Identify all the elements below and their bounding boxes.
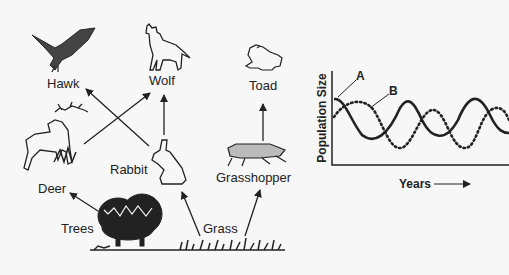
arrow-grass-to-rabbit — [182, 192, 200, 236]
label-grass: Grass — [203, 222, 238, 235]
rabbit-icon — [152, 140, 186, 184]
label-wolf: Wolf — [149, 74, 175, 87]
toad-icon — [246, 45, 282, 70]
y-axis-label: Population Size — [316, 58, 328, 178]
trees-icon — [98, 194, 162, 246]
arrow-trees-to-deer — [70, 193, 98, 211]
grasshopper-icon — [228, 144, 286, 166]
label-rabbit: Rabbit — [110, 163, 148, 176]
deer-icon — [24, 102, 88, 170]
arrow-rabbit-to-hawk — [86, 89, 149, 146]
hawk-icon — [32, 28, 95, 72]
series-b-label: B — [389, 85, 398, 97]
arrow-deer-to-wolf — [84, 93, 150, 144]
label-trees: Trees — [61, 222, 94, 235]
population-graph — [332, 71, 509, 184]
food-web-diagram: Hawk Wolf Toad Deer Rabbit Grasshopper T… — [0, 0, 509, 275]
wolf-icon — [146, 24, 190, 70]
series-a-label: A — [356, 70, 365, 82]
x-axis-label: Years — [399, 178, 431, 190]
label-toad: Toad — [249, 79, 277, 92]
label-hawk: Hawk — [47, 77, 80, 90]
series-b-line — [334, 102, 509, 148]
label-deer: Deer — [38, 182, 66, 195]
arrow-grass-to-grasshopper — [245, 190, 260, 236]
label-grasshopper: Grasshopper — [216, 171, 291, 184]
